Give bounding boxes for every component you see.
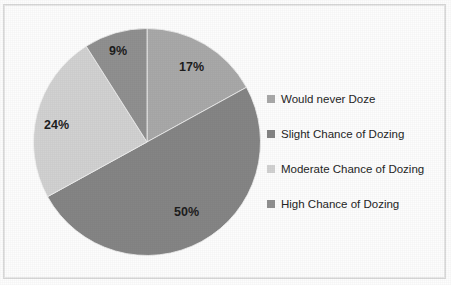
pie-slice-group — [34, 29, 261, 256]
legend-item-label: Slight Chance of Dozing — [281, 128, 404, 141]
legend-item-would-never-doze[interactable]: Would never Doze — [267, 89, 442, 109]
slice-label-high-chance: 9% — [109, 45, 127, 58]
legend-swatch-icon — [267, 130, 275, 138]
legend-item-high-chance-of-dozing[interactable]: High Chance of Dozing — [267, 194, 442, 214]
legend-swatch-icon — [267, 200, 275, 208]
chart-legend: Would never Doze Slight Chance of Dozing… — [267, 89, 442, 214]
pie-chart-graphic — [33, 28, 261, 256]
legend-item-moderate-chance-of-dozing[interactable]: Moderate Chance of Dozing — [267, 159, 442, 179]
legend-item-label: Moderate Chance of Dozing — [281, 163, 424, 176]
legend-swatch-icon — [267, 95, 275, 103]
legend-item-label: Would never Doze — [281, 93, 375, 106]
legend-item-label: High Chance of Dozing — [281, 198, 399, 211]
legend-item-slight-chance-of-dozing[interactable]: Slight Chance of Dozing — [267, 124, 442, 144]
pie-svg — [33, 28, 261, 256]
slice-label-would-never-doze: 17% — [179, 61, 204, 74]
slice-label-moderate-chance: 24% — [44, 119, 69, 132]
legend-swatch-icon — [267, 165, 275, 173]
slice-label-slight-chance: 50% — [174, 206, 199, 219]
pie-chart-figure: 17% 50% 24% 9% Would never Doze Slight C… — [0, 0, 451, 285]
